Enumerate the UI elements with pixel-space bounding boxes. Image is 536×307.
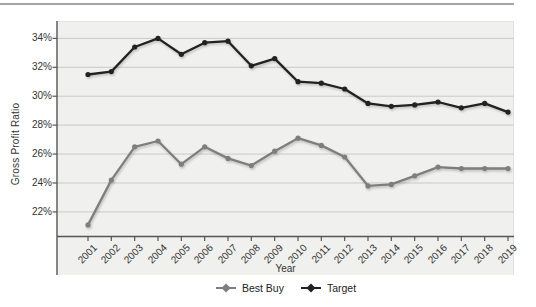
- target-point-2015: [412, 102, 417, 107]
- legend-diamond: [221, 283, 230, 292]
- x-axis-title: Year: [57, 263, 514, 274]
- best-buy-point-2010: [295, 136, 300, 141]
- best-buy-point-2003: [132, 144, 137, 149]
- y-tick-label: 26%: [12, 148, 52, 160]
- y-axis-title: Gross Profit Ratio: [10, 103, 21, 186]
- y-tick-label: 28%: [12, 119, 52, 131]
- target-point-2014: [389, 104, 394, 109]
- target-point-2007: [225, 39, 230, 44]
- best-buy-series: [85, 136, 510, 228]
- target-point-2004: [155, 36, 160, 41]
- legend-diamond: [306, 283, 315, 292]
- best-buy-point-2014: [389, 182, 394, 187]
- best-buy-point-2013: [365, 183, 370, 188]
- target-point-2006: [202, 40, 207, 45]
- y-tick-label: 22%: [12, 206, 52, 218]
- best-buy-point-2008: [249, 163, 254, 168]
- target-point-2008: [249, 63, 254, 68]
- y-tick-label: 30%: [12, 90, 52, 102]
- target-point-2018: [482, 101, 487, 106]
- legend-item-target: Target: [300, 282, 356, 294]
- target-line: [88, 38, 508, 112]
- target-point-2011: [319, 81, 324, 86]
- best-buy-point-2011: [319, 143, 324, 148]
- legend: Best BuyTarget: [57, 280, 514, 296]
- target-point-2003: [132, 44, 137, 49]
- gross-profit-ratio-chart: Gross Profit Ratio 34%32%30%28%26%24%22%…: [0, 0, 536, 307]
- target-point-2009: [272, 56, 277, 61]
- target-point-2017: [459, 105, 464, 110]
- target-point-2001: [85, 72, 90, 77]
- best-buy-point-2005: [179, 162, 184, 167]
- y-tick-label: 24%: [12, 177, 52, 189]
- best-buy-point-2015: [412, 173, 417, 178]
- legend-item-best-buy: Best Buy: [215, 282, 284, 294]
- target-point-2016: [435, 99, 440, 104]
- best-buy-point-2018: [482, 166, 487, 171]
- target-point-2002: [109, 69, 114, 74]
- best-buy-point-2017: [459, 166, 464, 171]
- target-point-2019: [505, 110, 510, 115]
- target-point-2010: [295, 79, 300, 84]
- best-buy-point-2007: [225, 156, 230, 161]
- best-buy-point-2004: [155, 138, 160, 143]
- target-point-2005: [179, 52, 184, 57]
- best-buy-point-2012: [342, 154, 347, 159]
- legend-label-best-buy: Best Buy: [242, 282, 284, 294]
- legend-label-target: Target: [327, 282, 356, 294]
- y-tick-label: 34%: [12, 32, 52, 44]
- legend-marker-target: [300, 283, 322, 293]
- best-buy-point-2019: [505, 166, 510, 171]
- gridlines: [57, 38, 514, 212]
- best-buy-point-2001: [85, 222, 90, 227]
- best-buy-point-2009: [272, 149, 277, 154]
- best-buy-point-2002: [109, 178, 114, 183]
- target-series: [85, 36, 510, 115]
- series-layer: [85, 36, 510, 228]
- best-buy-point-2016: [435, 165, 440, 170]
- target-point-2012: [342, 86, 347, 91]
- y-tick-label: 32%: [12, 61, 52, 73]
- best-buy-point-2006: [202, 144, 207, 149]
- legend-marker-best-buy: [215, 283, 237, 293]
- target-point-2013: [365, 101, 370, 106]
